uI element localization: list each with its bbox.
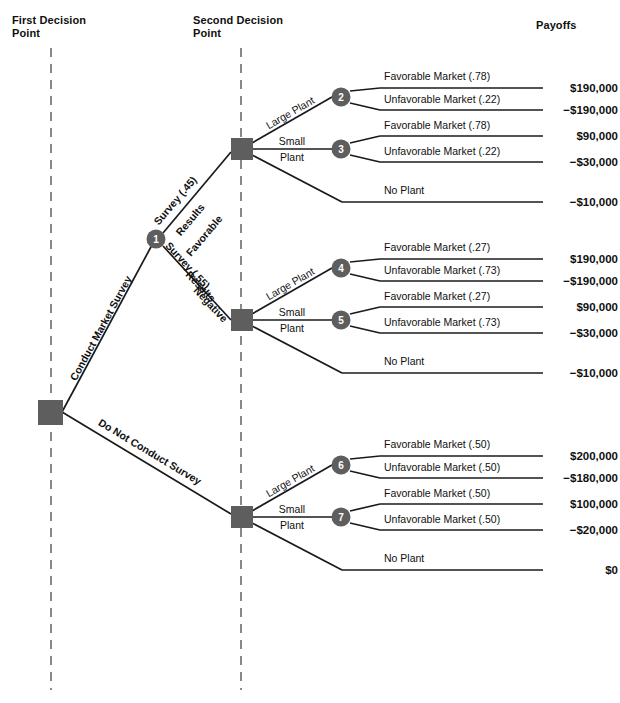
- g3-label-small-plant-line2: Plant: [280, 519, 304, 531]
- label-conduct-market-survey: Conduct Market Survey: [67, 274, 134, 383]
- g1-payoff-large-favorable: $190,000: [570, 82, 618, 94]
- second-decision-node-b: [231, 309, 253, 331]
- g3-n6-edge-fav: [350, 456, 380, 459]
- decision-tree-figure: First Decision Point Second Decision Poi…: [0, 0, 620, 703]
- g1-label-no-plant: No Plant: [384, 184, 424, 196]
- g3-payoff-no-plant: $0: [605, 564, 618, 576]
- g1-n2-edge-unf: [350, 103, 380, 110]
- g1-payoff-small-unfavorable: −$30,000: [570, 156, 618, 168]
- g1-n2-edge-fav: [350, 88, 380, 91]
- g2-n4-edge-unf: [350, 274, 380, 281]
- g2-payoff-small-unfavorable: −$30,000: [570, 327, 618, 339]
- second-decision-node-a: [231, 138, 253, 160]
- g1-n3-edge-unf: [350, 155, 380, 162]
- g3-outcome-large-favorable: Favorable Market (.50): [384, 438, 490, 450]
- g2-payoff-no-plant: −$10,000: [570, 367, 618, 379]
- g3-payoff-large-unfavorable: −$180,000: [563, 472, 618, 484]
- chance-node-6-label: 6: [338, 460, 344, 471]
- g3-label-large-plant: Large Plant: [264, 462, 317, 499]
- g1-payoff-small-favorable: $90,000: [576, 130, 618, 142]
- g1-outcome-small-unfavorable: Unfavorable Market (.22): [384, 145, 500, 157]
- g1-label-large-plant: Large Plant: [264, 94, 317, 131]
- g3-label-no-plant: No Plant: [384, 552, 424, 564]
- g1-outcome-large-unfavorable: Unfavorable Market (.22): [384, 93, 500, 105]
- g3-n7-edge-fav: [350, 504, 380, 511]
- g3-payoff-small-favorable: $100,000: [570, 498, 618, 510]
- g3-payoff-small-unfavorable: −$20,000: [570, 524, 618, 536]
- g2-payoff-large-favorable: $190,000: [570, 253, 618, 265]
- g2-outcome-large-unfavorable: Unfavorable Market (.73): [384, 264, 500, 276]
- chance-node-7-label: 7: [338, 512, 344, 523]
- chance-node-3-label: 3: [338, 144, 344, 155]
- g1-payoff-large-unfavorable: −$190,000: [563, 104, 618, 116]
- g2-outcome-small-unfavorable: Unfavorable Market (.73): [384, 316, 500, 328]
- g3-label-small-plant-line1: Small: [279, 503, 305, 515]
- g3-outcome-large-unfavorable: Unfavorable Market (.50): [384, 461, 500, 473]
- second-decision-node-c: [231, 506, 253, 528]
- branch-do-not-conduct-survey: [62, 412, 231, 514]
- g1-outcome-large-favorable: Favorable Market (.78): [384, 70, 490, 82]
- g3-outcome-small-unfavorable: Unfavorable Market (.50): [384, 513, 500, 525]
- g1-label-small-plant-line1: Small: [279, 135, 305, 147]
- g2-n5-edge-unf: [350, 326, 380, 333]
- g3-payoff-large-favorable: $200,000: [570, 450, 618, 462]
- g2-n5-edge-fav: [350, 307, 380, 314]
- label-do-not-conduct-survey: Do Not Conduct Survey: [96, 416, 203, 487]
- g1-payoff-no-plant: −$10,000: [570, 196, 618, 208]
- g2-outcome-small-favorable: Favorable Market (.27): [384, 290, 490, 302]
- chance-node-5-label: 5: [338, 315, 344, 326]
- g2-outcome-large-favorable: Favorable Market (.27): [384, 241, 490, 253]
- g1-n3-edge-fav: [350, 136, 380, 143]
- g2-label-no-plant: No Plant: [384, 355, 424, 367]
- g2-label-small-plant-line1: Small: [279, 306, 305, 318]
- g3-n6-edge-unf: [350, 471, 380, 478]
- g2-label-small-plant-line2: Plant: [280, 322, 304, 334]
- g2-n4-edge-fav: [350, 259, 380, 262]
- g3-outcome-small-favorable: Favorable Market (.50): [384, 487, 490, 499]
- chance-node-2-label: 2: [338, 92, 344, 103]
- g1-outcome-small-favorable: Favorable Market (.78): [384, 119, 490, 131]
- g2-payoff-small-favorable: $90,000: [576, 301, 618, 313]
- g2-payoff-large-unfavorable: −$190,000: [563, 275, 618, 287]
- first-decision-node: [38, 400, 63, 425]
- chance-node-4-label: 4: [338, 263, 344, 274]
- g3-n7-edge-unf: [350, 523, 380, 530]
- chance-node-1-label: 1: [153, 234, 159, 245]
- g1-label-small-plant-line2: Plant: [280, 151, 304, 163]
- g2-label-large-plant: Large Plant: [264, 265, 317, 302]
- decision-tree-canvas: Conduct Market Survey Do Not Conduct Sur…: [0, 0, 620, 703]
